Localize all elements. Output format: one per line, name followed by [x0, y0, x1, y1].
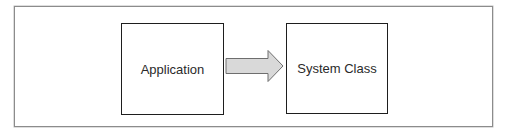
application-label: Application — [141, 62, 205, 77]
application-box: Application — [121, 23, 224, 115]
system-class-label: System Class — [297, 61, 376, 76]
block-arrow-icon — [224, 49, 286, 83]
system-class-box: System Class — [286, 23, 388, 114]
